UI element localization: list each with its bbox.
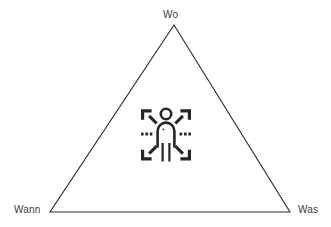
diagram-canvas: Wo Wann Was (0, 0, 331, 227)
arrow-down-right-icon (174, 145, 191, 160)
person-with-radiating-arrows-icon (141, 109, 191, 162)
dotted-line-left-icon (141, 133, 152, 136)
triangle-diagram (0, 0, 331, 227)
vertex-label-bottom-right: Was (298, 204, 318, 216)
vertex-label-top: Wo (163, 9, 178, 21)
person-torso-dot-icon (163, 129, 165, 131)
arrow-up-left-icon (141, 109, 158, 124)
person-head-icon (161, 109, 171, 119)
vertex-label-bottom-left: Wann (14, 204, 41, 216)
dotted-line-right-icon (180, 133, 191, 136)
person-torso-icon (158, 123, 175, 148)
arrow-up-right-icon (174, 109, 191, 124)
arrow-down-left-icon (141, 145, 158, 160)
